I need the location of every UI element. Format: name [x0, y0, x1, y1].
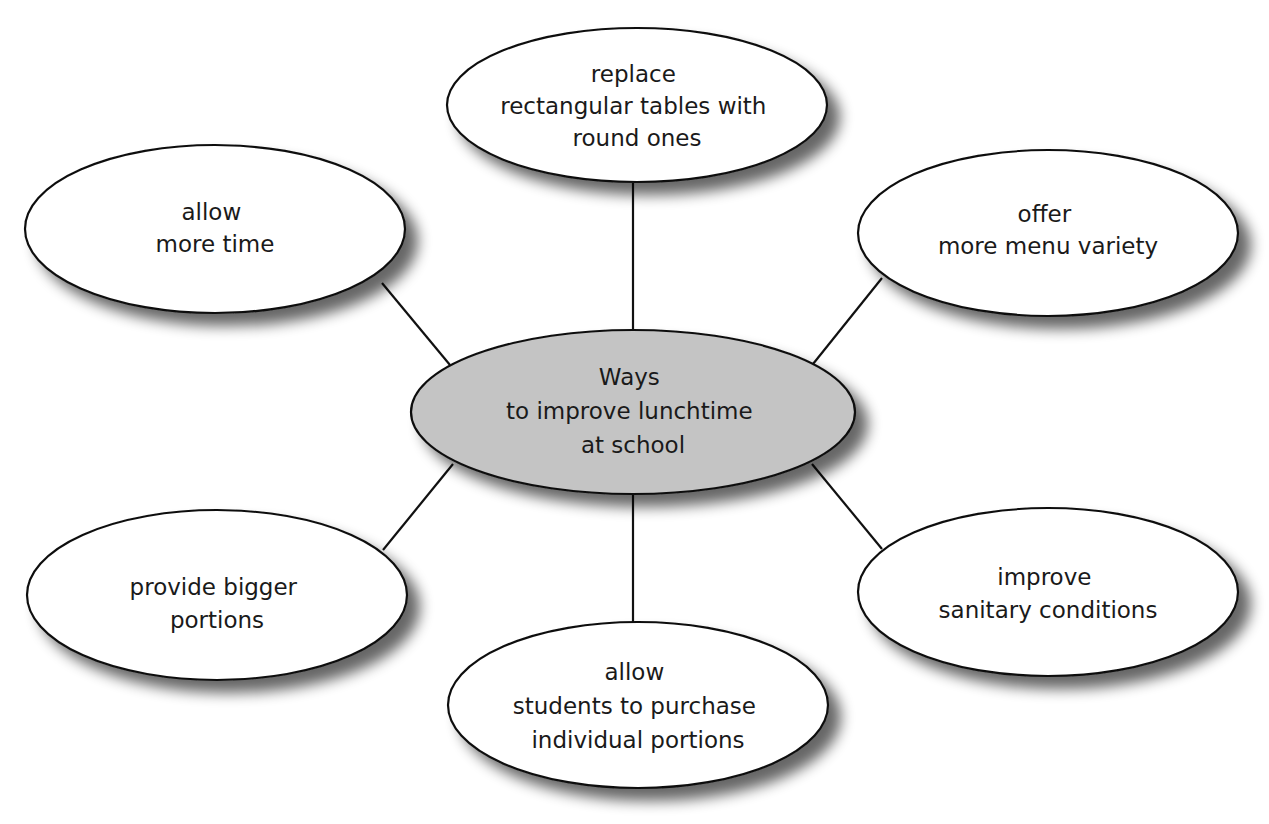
node-bottom-left-line-1: provide bigger [130, 574, 298, 600]
node-top: replace rectangular tables with round on… [447, 28, 827, 182]
node-bottom-line-1: allow [604, 659, 664, 685]
node-bottom-line-3: individual portions [531, 727, 744, 753]
node-top-left-line-1: allow [181, 199, 241, 225]
node-bottom-right-line-2: sanitary conditions [939, 597, 1158, 623]
center-line-2: to improve lunchtime [506, 398, 753, 424]
center-node: Ways to improve lunchtime at school [411, 330, 855, 494]
mind-map-diagram: replace rectangular tables with round on… [0, 0, 1269, 824]
center-line-3: at school [581, 432, 685, 458]
node-bottom: allow students to purchase individual po… [448, 622, 828, 788]
node-bottom-line-2: students to purchase [513, 693, 756, 719]
node-top-left: allow more time [25, 145, 405, 313]
node-top-line-1: replace [591, 61, 676, 87]
node-bottom-right-line-1: improve [997, 564, 1091, 590]
node-bottom-left-line-2: portions [170, 607, 264, 633]
connector-top-left [382, 283, 450, 365]
node-top-left-line-2: more time [156, 231, 275, 257]
node-top-line-2: rectangular tables with [500, 93, 766, 119]
node-bottom-right: improve sanitary conditions [858, 508, 1238, 676]
node-top-right-line-2: more menu variety [938, 233, 1158, 259]
center-line-1: Ways [599, 364, 660, 390]
connector-top-right [813, 278, 882, 364]
node-bottom-left: provide bigger portions [27, 510, 407, 680]
node-top-line-3: round ones [573, 125, 702, 151]
node-top-right-line-1: offer [1018, 201, 1072, 227]
connector-bottom-right [812, 464, 882, 549]
node-top-right: offer more menu variety [858, 150, 1238, 316]
connector-bottom-left [383, 464, 453, 550]
